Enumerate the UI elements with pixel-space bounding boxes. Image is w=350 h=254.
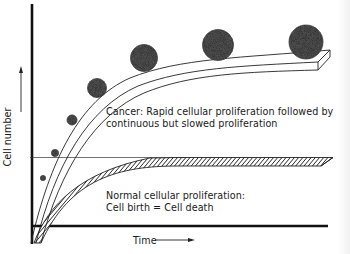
normal-label-line-1: Normal cellular proliferation: [106, 190, 245, 202]
y-axis-arrow-head-icon [19, 66, 23, 73]
normal-curve-label: Normal cellular proliferation: Cell birt… [106, 190, 245, 214]
cancer-proliferation-ribbon [31, 50, 330, 243]
cancer-label-line-2: continuous but slowed proliferation [106, 118, 333, 130]
y-axis-label: Cell number [2, 107, 14, 167]
cancer-curve-label: Cancer: Rapid cellular proliferation fol… [106, 106, 333, 130]
x-axis-label: Time [133, 235, 157, 247]
tumor-sphere-2 [51, 149, 58, 156]
normal-label-line-2: Cell birth = Cell death [106, 202, 245, 214]
tumor-sphere-4 [88, 79, 107, 98]
tumor-sphere-6 [203, 30, 234, 61]
tumor-sphere-7 [289, 25, 323, 59]
proliferation-diagram: Cancer: Rapid cellular proliferation fol… [0, 0, 350, 254]
page-edge-shadow [338, 0, 350, 254]
tumor-sphere-5 [131, 45, 158, 72]
tumor-sphere-3 [67, 115, 77, 125]
tumor-sphere-1 [40, 175, 45, 180]
x-axis-arrow-head-icon [188, 238, 195, 242]
cancer-label-line-1: Cancer: Rapid cellular proliferation fol… [106, 106, 333, 118]
